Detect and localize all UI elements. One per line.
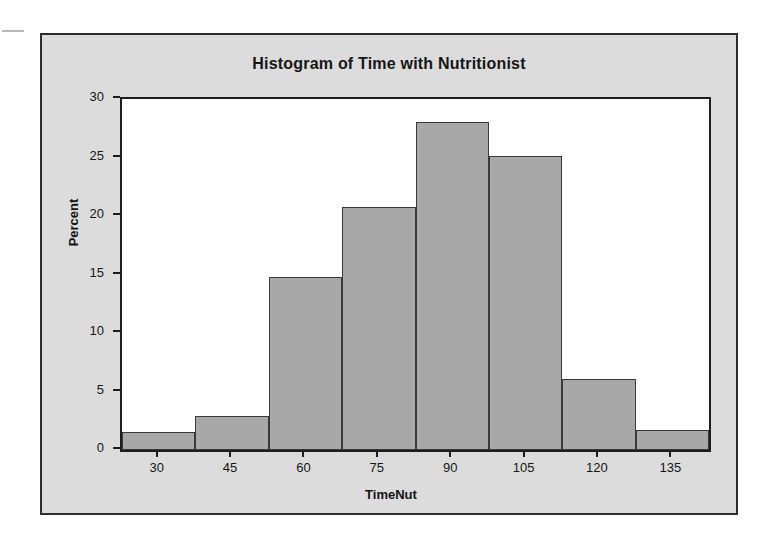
plot-area: [120, 97, 711, 452]
x-axis-tick-label: 30: [137, 460, 177, 475]
y-axis-tick: [113, 155, 120, 157]
histogram-bar: [122, 432, 195, 450]
histogram-bar: [562, 379, 635, 450]
histogram-bar: [195, 416, 268, 450]
chart-figure: Histogram of Time with Nutritionist Perc…: [40, 33, 738, 515]
y-axis-tick-label: 5: [70, 382, 104, 397]
y-axis-tick: [113, 213, 120, 215]
y-axis-tick-label: 15: [70, 265, 104, 280]
y-axis-tick-label: 10: [70, 323, 104, 338]
x-axis-tick-label: 60: [283, 460, 323, 475]
y-axis-tick: [113, 272, 120, 274]
x-axis-tick-label: 45: [210, 460, 250, 475]
y-axis-tick: [113, 96, 120, 98]
histogram-bar: [269, 277, 342, 450]
x-axis-title: TimeNut: [42, 487, 740, 502]
x-axis-tick-label: 105: [504, 460, 544, 475]
y-axis-tick-label: 0: [70, 440, 104, 455]
y-axis-tick-label: 30: [70, 89, 104, 104]
chart-title: Histogram of Time with Nutritionist: [42, 55, 736, 73]
histogram-bar: [416, 122, 489, 450]
x-axis-tick-label: 90: [430, 460, 470, 475]
x-axis-tick-label: 135: [650, 460, 690, 475]
y-axis-tick: [113, 330, 120, 332]
y-axis-tick: [113, 389, 120, 391]
y-axis-tick: [113, 447, 120, 449]
histogram-bar: [342, 207, 415, 450]
histogram-bar: [489, 156, 562, 450]
x-axis-tick-label: 75: [357, 460, 397, 475]
y-axis-tick-label: 20: [70, 206, 104, 221]
x-axis-tick-label: 120: [577, 460, 617, 475]
scan-artifact-mark: [2, 30, 24, 32]
histogram-bar: [636, 430, 709, 450]
y-axis-tick-label: 25: [70, 148, 104, 163]
histogram-bars: [122, 99, 709, 450]
